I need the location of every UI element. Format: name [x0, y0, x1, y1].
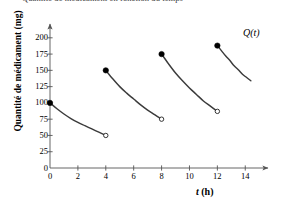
chart-container: Quantité de médicament en fonction du te…: [0, 0, 284, 208]
plot-area: [0, 0, 284, 208]
point-open-dose-1: [104, 133, 108, 137]
point-filled-dose-2: [103, 68, 108, 73]
x-axis-label-unit: (h): [199, 186, 214, 197]
curve-dose-3: [162, 54, 218, 111]
curve-dose-4: [217, 46, 250, 81]
curve-dose-2: [106, 70, 162, 119]
point-open-dose-2: [159, 117, 163, 121]
point-filled-dose-4: [215, 43, 220, 48]
x-axis-label: t (h): [196, 186, 214, 197]
curve-dose-1: [50, 103, 106, 136]
point-filled-dose-3: [159, 51, 164, 56]
point-filled-dose-1: [47, 100, 52, 105]
point-open-dose-3: [215, 109, 219, 113]
series-legend-label: Q(t): [243, 27, 260, 38]
